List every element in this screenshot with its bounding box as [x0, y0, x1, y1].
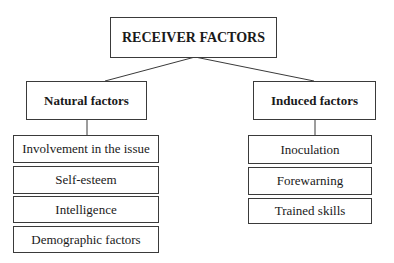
item-label: Trained skills: [275, 203, 346, 219]
connector-root-induced: [195, 57, 314, 81]
natural-factors-label: Natural factors: [44, 93, 129, 109]
root-node: RECEIVER FACTORS: [110, 17, 277, 58]
natural-factors-node: Natural factors: [26, 81, 147, 120]
natural-item-intelligence: Intelligence: [13, 196, 159, 223]
induced-item-trained-skills: Trained skills: [248, 198, 372, 224]
induced-item-inoculation: Inoculation: [248, 135, 372, 164]
natural-item-involvement: Involvement in the issue: [13, 135, 159, 163]
induced-factors-node: Induced factors: [253, 81, 376, 120]
item-label: Inoculation: [280, 142, 339, 158]
item-label: Self-esteem: [55, 172, 116, 188]
item-label: Forewarning: [277, 173, 343, 189]
item-label: Involvement in the issue: [22, 141, 149, 157]
induced-factors-label: Induced factors: [271, 93, 358, 109]
connector-root-natural: [105, 57, 195, 81]
root-label: RECEIVER FACTORS: [122, 30, 265, 46]
natural-item-self-esteem: Self-esteem: [13, 166, 159, 194]
natural-item-demographic: Demographic factors: [13, 226, 159, 253]
item-label: Intelligence: [55, 202, 116, 218]
item-label: Demographic factors: [31, 232, 140, 248]
induced-item-forewarning: Forewarning: [248, 167, 372, 195]
